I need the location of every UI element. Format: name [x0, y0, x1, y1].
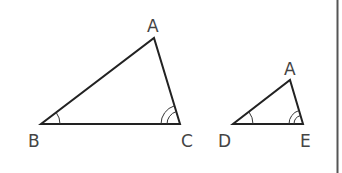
triangle-ade-outline [233, 80, 303, 124]
similar-triangles-diagram: A B C A D E [0, 0, 342, 173]
angle-e-arc-inner [294, 116, 301, 125]
vertex-label-a-small: A [284, 59, 296, 79]
vertex-label-e: E [300, 131, 311, 151]
triangle-abc: A B C [28, 16, 193, 151]
angle-b-arc [56, 113, 60, 125]
vertex-label-b: B [28, 131, 40, 151]
triangle-ade: A D E [218, 59, 311, 151]
vertex-label-c: C [181, 131, 193, 151]
angle-c-arc-inner [167, 112, 176, 124]
angle-d-arc [249, 112, 253, 124]
triangle-abc-outline [41, 38, 180, 124]
vertex-label-d: D [218, 131, 231, 151]
vertex-label-a-large: A [147, 16, 159, 36]
